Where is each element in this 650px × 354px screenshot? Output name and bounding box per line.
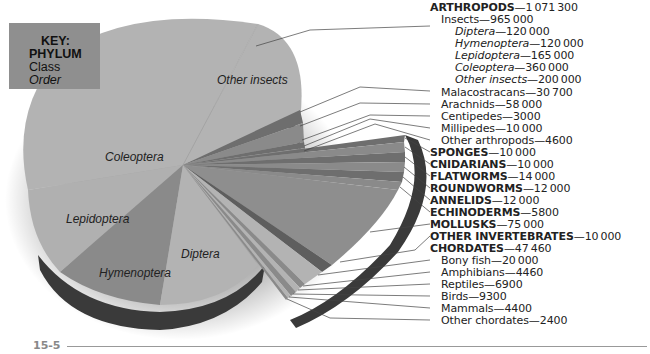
legend-value: —4600	[534, 134, 573, 147]
legend-item-other-chordates: Other chordates—2400	[441, 315, 567, 327]
legend-value: —10 000	[574, 230, 622, 243]
page-number: 15-5	[33, 339, 61, 352]
key-class: Class	[29, 60, 60, 74]
key-order: Order	[29, 73, 61, 87]
footer-rule	[67, 346, 647, 347]
label-lepidoptera: Lepidoptera	[66, 212, 129, 226]
legend-name: Other chordates	[441, 314, 529, 327]
label-hymenoptera: Hymenoptera	[99, 266, 171, 280]
label-diptera: Diptera	[181, 247, 220, 261]
legend-name: Other insects	[455, 73, 527, 86]
legend-key: KEY: PHYLUM Class Order	[9, 23, 100, 89]
legend-value: —2400	[529, 314, 568, 327]
species-pie-chart: KEY: PHYLUM Class Order Other insects Co…	[0, 0, 650, 354]
label-other-insects: Other insects	[217, 73, 288, 87]
label-coleoptera: Coleoptera	[105, 150, 164, 164]
legend-item-other-insects: Other insects—200 000	[455, 74, 581, 86]
key-title: KEY:	[41, 34, 70, 48]
legend-value: —200 000	[527, 73, 581, 86]
key-phylum: PHYLUM	[29, 47, 82, 61]
